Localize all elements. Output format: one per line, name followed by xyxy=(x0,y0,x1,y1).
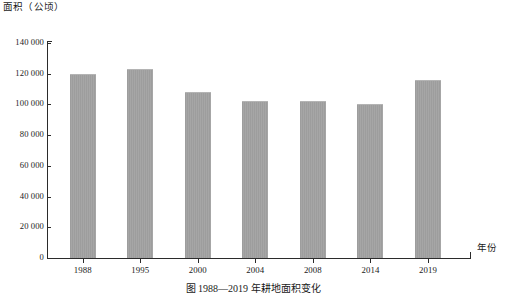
x-axis-tick-mark xyxy=(83,259,84,263)
x-axis-tick-mark xyxy=(255,259,256,263)
bar xyxy=(185,92,211,258)
y-axis-tick-label: 80 000 xyxy=(20,130,44,139)
x-axis-tick-label: 1988 xyxy=(53,265,113,275)
x-axis-tick-label: 2000 xyxy=(168,265,228,275)
x-axis-tick-label: 2014 xyxy=(340,265,400,275)
bar-chart-figure: 面积（公顷） 020 00040 00060 00080 000100 0001… xyxy=(0,0,506,293)
x-axis-tick-label: 2008 xyxy=(283,265,343,275)
x-axis-tick-mark xyxy=(428,259,429,263)
y-axis-tick-label: 20 000 xyxy=(20,222,44,231)
x-axis-tick-mark xyxy=(370,259,371,263)
y-axis-tick-label: 40 000 xyxy=(20,192,44,201)
plot-area xyxy=(47,43,470,258)
y-axis-tick-label: 0 xyxy=(40,253,44,262)
x-axis-tick-label: 2019 xyxy=(398,265,458,275)
bar xyxy=(127,69,153,258)
x-axis-end-cap xyxy=(470,252,471,259)
y-axis-tick-label: 120 000 xyxy=(15,69,44,78)
y-axis-tick-labels: 020 00040 00060 00080 000100 000120 0001… xyxy=(0,0,44,293)
x-axis-tick-label: 1995 xyxy=(110,265,170,275)
x-axis-tick-mark xyxy=(198,259,199,263)
bar xyxy=(415,80,441,258)
x-axis-tick-mark xyxy=(313,259,314,263)
bar xyxy=(300,101,326,258)
y-axis-tick-label: 100 000 xyxy=(15,99,44,108)
y-axis-tick-label: 140 000 xyxy=(15,38,44,47)
y-axis-tick-label: 60 000 xyxy=(20,161,44,170)
x-axis-tick-label: 2004 xyxy=(225,265,285,275)
bar xyxy=(242,101,268,258)
x-axis-line xyxy=(47,258,471,259)
bar xyxy=(70,74,96,258)
figure-caption: 图 1988—2019 年耕地面积变化 xyxy=(0,283,506,293)
y-axis-top-cap xyxy=(47,41,52,42)
x-axis-title: 年份 xyxy=(477,243,497,254)
x-axis-tick-mark xyxy=(140,259,141,263)
bar xyxy=(357,104,383,258)
